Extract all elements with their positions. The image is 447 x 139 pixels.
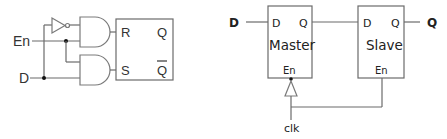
r-pin-label: R [121, 25, 130, 40]
master-q-pin: Q [299, 17, 308, 30]
ff-q-output-label: Q [427, 16, 437, 30]
clk-label: clk [284, 122, 300, 135]
d-input-label: D [19, 70, 29, 86]
inverter-bubble [66, 24, 70, 28]
not-gate-icon [52, 18, 65, 33]
master-d-pin: D [272, 17, 280, 30]
qbar-pin-label: Q [157, 63, 167, 78]
master-slave-flip-flop: D D Q Master En D Q Slave En Q clk [229, 6, 437, 135]
ff-d-input-label: D [229, 16, 239, 30]
slave-en-pin: En [375, 65, 388, 76]
slave-d-pin: D [363, 17, 371, 30]
master-en-pin: En [283, 65, 296, 76]
gated-d-latch: En D R S Q Q [13, 17, 173, 86]
q-pin-label: Q [157, 25, 167, 40]
slave-label: Slave [366, 37, 403, 53]
en-input-label: En [13, 33, 30, 49]
master-label: Master [269, 37, 316, 53]
slave-q-pin: Q [391, 17, 400, 30]
junction-dot-d [42, 76, 46, 80]
and-gate-upper-icon [80, 17, 110, 47]
diagram-canvas: En D R S Q Q D D Q Master En D Q Slave E… [0, 0, 447, 139]
and-gate-lower-icon [80, 55, 110, 85]
clock-buffer-icon [285, 81, 297, 96]
s-pin-label: S [121, 63, 130, 78]
